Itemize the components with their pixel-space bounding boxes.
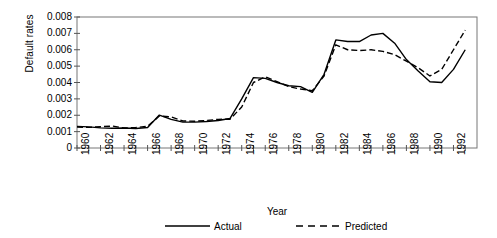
x-tick-label: 1968 — [175, 133, 185, 155]
x-tick-label: 1990 — [434, 133, 444, 155]
x-tick-label: 1960 — [81, 133, 91, 155]
x-tick-label: 1986 — [387, 133, 397, 155]
data-series-group — [77, 30, 465, 128]
x-tick-label: 1964 — [128, 133, 138, 155]
default-rates-chart: 0.0080.0070.0060.0050.0040.0030.0020.001… — [0, 0, 497, 238]
x-tick-label: 1966 — [152, 133, 162, 155]
x-tick-label: 1982 — [340, 133, 350, 155]
legend-label-actual: Actual — [214, 221, 242, 232]
x-tick-label: 1980 — [316, 133, 326, 155]
series-line-actual — [77, 33, 465, 128]
x-tick-label: 1970 — [199, 133, 209, 155]
x-tick-label: 1992 — [457, 133, 467, 155]
x-tick-label: 1962 — [105, 133, 115, 155]
x-tick-label: 1974 — [246, 133, 256, 155]
x-tick-label: 1984 — [363, 133, 373, 155]
x-axis-title: Year — [247, 206, 307, 217]
series-line-predicted — [77, 30, 465, 128]
plot-area-svg — [0, 0, 497, 238]
legend-label-predicted: Predicted — [345, 221, 387, 232]
x-tick-label: 1976 — [269, 133, 279, 155]
x-tick-label: 1988 — [410, 133, 420, 155]
x-tick-label: 1972 — [222, 133, 232, 155]
x-tick-label: 1978 — [293, 133, 303, 155]
